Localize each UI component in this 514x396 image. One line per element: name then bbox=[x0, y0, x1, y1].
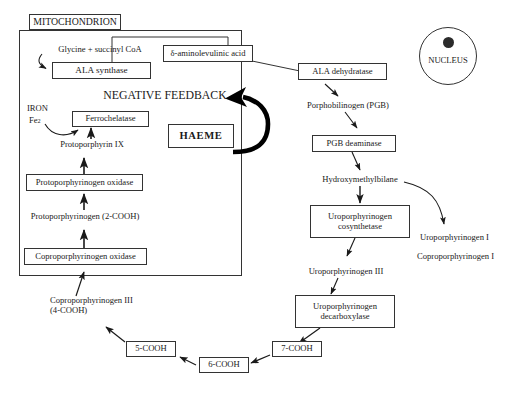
cosynthetase-line2: cosynthetase bbox=[338, 222, 382, 232]
coproporphyrinogen-oxidase-box: Coproporphyrinogen oxidase bbox=[24, 248, 147, 265]
edge-ala-acid-to-ala-dehydratase bbox=[252, 61, 300, 71]
uroporphyrinogen-iii-label: Uroporphyrinogen III bbox=[294, 266, 398, 278]
uroporphyrinogen-decarboxylase-box: Uroporphyrinogen decarboxylase bbox=[295, 295, 395, 328]
decarboxylase-line2: decarboxylase bbox=[320, 312, 369, 322]
edge-haeme-negative-feedback bbox=[233, 97, 268, 152]
hydroxymethylbilane-label: Hydroxymethylbilane bbox=[305, 174, 415, 186]
iron-ion-charge: 2 bbox=[38, 118, 41, 125]
coproporphyrinogen-iii-line2: (4-COOH) bbox=[50, 306, 87, 316]
ala-dehydratase-box: ALA dehydratase bbox=[298, 63, 387, 80]
cooh7-box: 7-COOH bbox=[272, 341, 322, 357]
cooh6-box: 6-COOH bbox=[199, 357, 249, 373]
haeme-box: HAEME bbox=[168, 124, 234, 148]
edge-6cooh-to-5cooh bbox=[180, 357, 196, 365]
edge-pgb-to-pgb-deaminase bbox=[345, 112, 357, 128]
porphobilinogen-label: Porphobilinogen (PGB) bbox=[292, 100, 404, 112]
coproporphyrinogen-i-label: Coproporphyrinogen I bbox=[417, 251, 514, 263]
uroporphyrinogen-cosynthetase-box: Uroporphyrinogen cosynthetase bbox=[310, 205, 410, 238]
ala-synthase-box: ALA synthase bbox=[52, 62, 151, 79]
iron-label: IRON bbox=[27, 103, 61, 114]
edge-cosynthetase-to-uro-iii bbox=[347, 238, 355, 256]
nucleus-shape: NUCLEUS bbox=[419, 27, 477, 85]
feedback-arrowhead bbox=[225, 87, 247, 107]
edge-pgb-deaminase-to-hmb bbox=[352, 152, 360, 170]
edge-hmb-to-uroporphyrinogen-i bbox=[404, 182, 444, 224]
coproporphyrinogen-iii-label: Coproporphyrinogen III (4-COOH) bbox=[50, 296, 160, 320]
heme-synthesis-diagram: MITOCHONDRION Glycine + succinyl CoA ALA… bbox=[0, 0, 514, 396]
cooh5-box: 5-COOH bbox=[126, 341, 176, 357]
edge-ala-dehydratase-to-pgb bbox=[325, 84, 338, 96]
edge-7cooh-to-6cooh bbox=[251, 355, 270, 363]
pgb-deaminase-box: PGB deaminase bbox=[312, 135, 396, 152]
edge-5cooh-to-coproporphyrinogen-iii bbox=[106, 327, 125, 342]
edge-coproporphyrinogen-iii-to-oxidase bbox=[76, 272, 84, 296]
mitochondrion-label: MITOCHONDRION bbox=[29, 14, 121, 30]
glycine-succinyl-coa-label: Glycine + succinyl CoA bbox=[40, 44, 160, 56]
protoporphyrinogen-2cooh-label: Protoporphyrinogen (2-COOH) bbox=[21, 211, 149, 223]
nucleolus-icon bbox=[443, 37, 454, 48]
edge-glycine-to-ala-synthase bbox=[39, 54, 46, 69]
nucleus-label: NUCLEUS bbox=[420, 55, 476, 65]
iron-ion-symbol: Fe bbox=[29, 116, 38, 126]
iron-ion-label: Fe2 bbox=[29, 115, 63, 127]
protoporphyrin-ix-label: Protoporphyrin IX bbox=[43, 139, 141, 151]
delta-aminolevulinic-acid-box: δ-aminolevulinic acid bbox=[163, 45, 253, 62]
negative-feedback-label: NEGATIVE FEEDBACK bbox=[102, 89, 228, 103]
ferrochelatase-box: Ferrochelatase bbox=[72, 111, 149, 127]
edge-uro-iii-to-decarboxylase bbox=[331, 278, 338, 294]
protoporphyrinogen-oxidase-box: Protoporphyrinogen oxidase bbox=[26, 174, 143, 191]
uroporphyrinogen-i-label: Uroporphyrinogen I bbox=[420, 232, 512, 244]
